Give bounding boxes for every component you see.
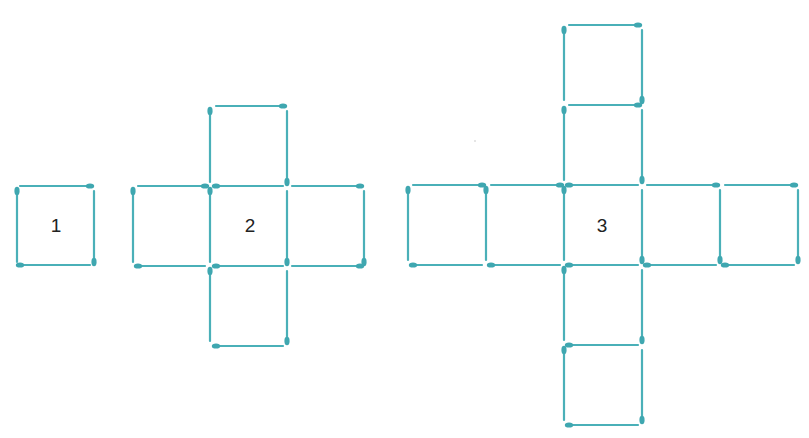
match-head-icon bbox=[130, 187, 135, 195]
match-head-icon bbox=[565, 182, 573, 187]
match-head-icon bbox=[212, 343, 220, 348]
stray-dot bbox=[474, 140, 476, 142]
match-head-icon bbox=[795, 256, 800, 264]
match-head-icon bbox=[356, 183, 364, 188]
match-head-icon bbox=[405, 186, 410, 194]
match-head-icon bbox=[565, 262, 573, 267]
match-head-icon bbox=[201, 183, 209, 188]
match-head-icon bbox=[14, 187, 19, 195]
match-head-icon bbox=[639, 416, 644, 424]
match-head-icon bbox=[712, 182, 720, 187]
match-head-icon bbox=[717, 256, 722, 264]
match-head-icon bbox=[212, 183, 220, 188]
match-head-icon bbox=[634, 102, 642, 107]
matchstick-diagram bbox=[0, 0, 809, 438]
match-head-icon bbox=[561, 346, 566, 354]
match-head-icon bbox=[284, 258, 289, 266]
match-head-icon bbox=[565, 342, 573, 347]
match-head-icon bbox=[212, 263, 220, 268]
match-head-icon bbox=[561, 26, 566, 34]
match-head-icon bbox=[561, 106, 566, 114]
match-head-icon bbox=[409, 262, 417, 267]
match-head-icon bbox=[561, 266, 566, 274]
figure-3-label: 3 bbox=[597, 215, 608, 237]
match-head-icon bbox=[634, 22, 642, 27]
match-head-icon bbox=[790, 182, 798, 187]
match-head-icon bbox=[565, 422, 573, 427]
match-head-icon bbox=[356, 263, 364, 268]
match-head-icon bbox=[207, 187, 212, 195]
match-head-icon bbox=[279, 103, 287, 108]
match-head-icon bbox=[207, 267, 212, 275]
match-head-icon bbox=[91, 258, 96, 266]
match-head-icon bbox=[639, 176, 644, 184]
match-head-icon bbox=[639, 336, 644, 344]
figure-1-label: 1 bbox=[51, 215, 62, 237]
match-head-icon bbox=[561, 186, 566, 194]
match-head-icon bbox=[487, 262, 495, 267]
match-head-icon bbox=[721, 262, 729, 267]
match-head-icon bbox=[284, 337, 289, 345]
match-head-icon bbox=[284, 178, 289, 186]
match-head-icon bbox=[86, 183, 94, 188]
match-head-icon bbox=[643, 262, 651, 267]
match-head-icon bbox=[639, 256, 644, 264]
match-head-icon bbox=[483, 186, 488, 194]
figure-2-label: 2 bbox=[245, 215, 256, 237]
match-head-icon bbox=[134, 263, 142, 268]
match-head-icon bbox=[207, 107, 212, 115]
match-head-icon bbox=[16, 262, 24, 267]
